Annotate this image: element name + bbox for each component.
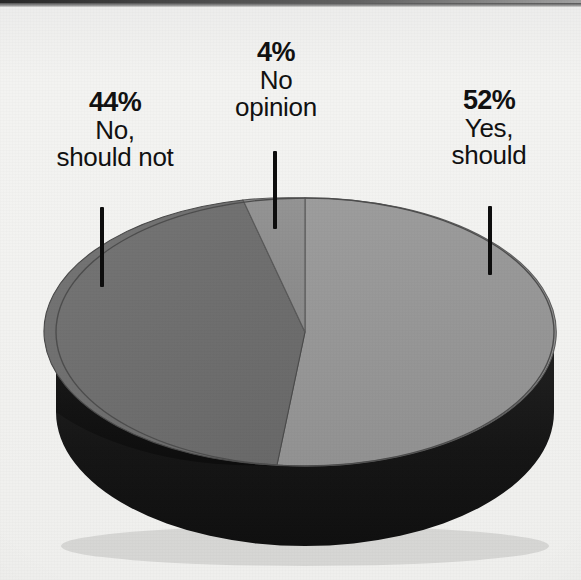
leader-line-no-opinion xyxy=(273,151,277,229)
leader-line-yes xyxy=(488,206,492,275)
leader-line-no xyxy=(100,207,104,287)
slice-percent-yes: 52% xyxy=(418,86,560,115)
slice-name-no-opinion-line-2: opinion xyxy=(206,94,346,122)
slice-label-yes: 52% Yes, should xyxy=(418,86,560,170)
slice-name-no-line-2: should not xyxy=(22,144,208,172)
slice-label-no-opinion: 4% No opinion xyxy=(206,38,346,122)
slice-percent-no-opinion: 4% xyxy=(206,38,346,67)
pie-chart-figure: 44% No, should not 4% No opinion 52% Yes… xyxy=(0,0,581,580)
slice-percent-no: 44% xyxy=(22,88,208,117)
slice-name-yes-line-2: should xyxy=(418,142,560,170)
slice-label-no: 44% No, should not xyxy=(22,88,208,172)
slice-name-no-opinion-line-1: No xyxy=(206,67,346,95)
slice-name-no-line-1: No, xyxy=(22,117,208,145)
slice-name-yes-line-1: Yes, xyxy=(418,115,560,143)
